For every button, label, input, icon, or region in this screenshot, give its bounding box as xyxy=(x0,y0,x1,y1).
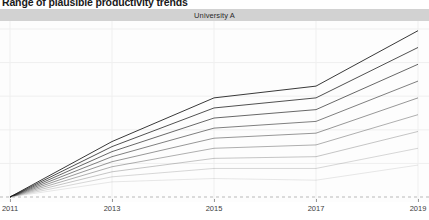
x-tick-label: 2011 xyxy=(2,204,18,213)
chart-root: Range of plausible productivity trends U… xyxy=(0,0,429,220)
x-tick-label: 2017 xyxy=(308,204,325,213)
x-tick-mark xyxy=(418,199,419,202)
x-tick-mark xyxy=(214,199,215,202)
facet-strip: University A xyxy=(0,9,429,21)
x-tick-label: 2013 xyxy=(104,204,121,213)
x-tick-label: 2019 xyxy=(410,204,427,213)
x-axis: 20112013201520172019 xyxy=(0,199,429,220)
x-tick-label: 2015 xyxy=(206,204,223,213)
x-tick-mark xyxy=(316,199,317,202)
x-tick-mark xyxy=(112,199,113,202)
page-title: Range of plausible productivity trends xyxy=(2,0,188,8)
facet-strip-label: University A xyxy=(194,11,235,20)
fan-chart-svg xyxy=(0,21,429,202)
x-tick-mark xyxy=(10,199,11,202)
gridlines xyxy=(0,21,429,202)
plot-panel xyxy=(0,21,429,202)
